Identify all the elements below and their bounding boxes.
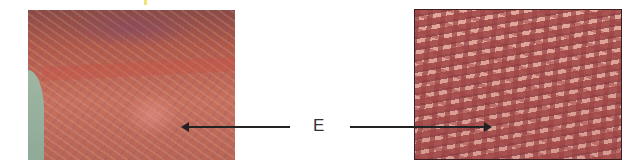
arrowhead-right-icon (484, 122, 492, 132)
arrow-to-left-panel (185, 126, 290, 128)
tissue-band (42, 57, 235, 81)
right-micrograph (414, 9, 622, 160)
left-micrograph (28, 10, 235, 160)
tissue-edge-region (28, 70, 44, 160)
label-e: E (313, 116, 324, 136)
yellow-mark (144, 0, 147, 5)
arrow-to-right-panel (350, 126, 485, 128)
